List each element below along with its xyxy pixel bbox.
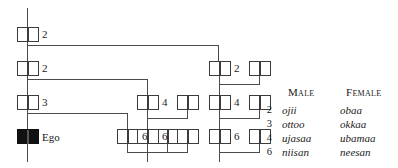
kin-number-label: 4 [234, 97, 240, 108]
legend-row-male-term: ojii [282, 104, 297, 116]
kin-symbol [178, 96, 199, 110]
kin-symbol [210, 96, 231, 110]
legend-row-female-term: obaa [340, 104, 362, 116]
kin-symbol [158, 130, 179, 144]
kin-symbol [18, 96, 39, 110]
kin-number-label: 2 [42, 29, 48, 40]
ego-symbol [18, 130, 39, 144]
kin-number-label: 4 [162, 97, 168, 108]
kin-symbol [18, 28, 39, 42]
kin-number-label: 6 [162, 131, 168, 142]
kin-symbol [138, 130, 159, 144]
kin-number-label: 2 [42, 63, 48, 74]
kin-number-label: 6 [142, 131, 148, 142]
legend-row-number: 2 [262, 104, 272, 115]
legend-row-male-term: ottoo [282, 118, 305, 130]
legend-row-male-term: ujasaa [282, 132, 311, 144]
kin-symbol [178, 130, 199, 144]
legend-row-female-term: okkaa [340, 118, 366, 130]
kin-symbol [118, 130, 139, 144]
legend-row-number: 6 [262, 146, 272, 157]
kinship-diagram-root: 223646246Ego Male Female 2ojiiobaa3ottoo… [0, 0, 398, 168]
legend-row-male-term: niisan [282, 146, 309, 158]
legend-row-number: 3 [262, 118, 272, 129]
kin-number-label: 6 [234, 131, 240, 142]
kin-number-label: 3 [42, 97, 48, 108]
ego-label: Ego [42, 132, 60, 143]
legend-row-female-term: neesan [340, 146, 371, 158]
kinship-term-legend: Male Female 2ojiiobaa3ottoookkaa4ujasaau… [262, 86, 398, 164]
kin-symbol [210, 62, 231, 76]
legend-row-number: 4 [262, 132, 272, 143]
kin-symbol [210, 130, 231, 144]
kin-symbol [250, 62, 271, 76]
legend-header-male: Male [288, 86, 315, 98]
kin-symbol [138, 96, 159, 110]
kin-number-label: 2 [234, 63, 240, 74]
legend-header-female: Female [346, 86, 381, 98]
legend-row-female-term: ubamaa [340, 132, 375, 144]
kin-symbol [18, 62, 39, 76]
